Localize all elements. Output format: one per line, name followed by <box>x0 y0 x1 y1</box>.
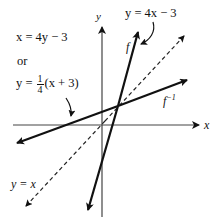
f-label: f <box>126 41 129 53</box>
f-inverse-label: f−1 <box>163 94 176 107</box>
inverse-equation-solved: y = 1 4 (x + 3) <box>16 74 79 95</box>
y-axis-label: y <box>96 11 101 22</box>
fraction-one-quarter: 1 4 <box>37 74 44 95</box>
or-connector: or <box>17 55 27 68</box>
f-inverse-line-right <box>118 80 187 106</box>
f-inverse-superscript: −1 <box>166 93 175 102</box>
f-line-lower <box>88 106 118 210</box>
inverse-eq-prefix: y = <box>16 76 32 90</box>
f-inverse-equation-pointer <box>66 98 71 116</box>
f-equation-pointer <box>141 22 154 44</box>
inverse-eq-suffix: (x + 3) <box>45 76 79 90</box>
fraction-denominator: 4 <box>37 85 44 95</box>
identity-label: y = x <box>11 178 36 190</box>
x-axis-label: x <box>204 119 209 131</box>
inverse-equation-line1: x = 4y − 3 <box>16 31 68 44</box>
f-equation-label: y = 4x − 3 <box>125 7 177 20</box>
